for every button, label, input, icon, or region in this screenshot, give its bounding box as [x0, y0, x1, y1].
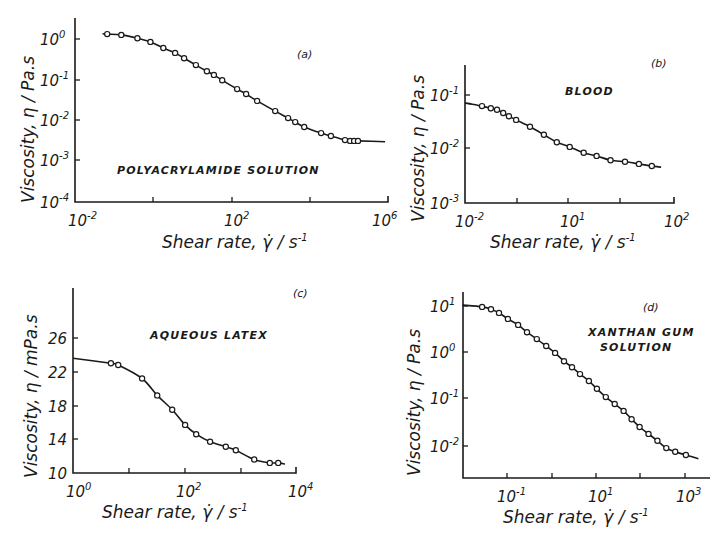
- panel-d-x-tick-labels: 10-1 101 103: [497, 486, 701, 506]
- data-point-marker: [622, 159, 627, 164]
- data-point-marker: [501, 110, 506, 115]
- data-point-marker: [342, 138, 347, 143]
- panel-b-y-tick-labels: 10-1 10-2 10-3: [430, 85, 459, 213]
- svg-text:100: 100: [430, 342, 455, 362]
- data-point-marker: [586, 378, 591, 383]
- svg-text:103: 103: [676, 486, 701, 506]
- data-point-marker: [612, 401, 617, 406]
- panel-d-tag: (d): [643, 301, 659, 314]
- panel-d-y-tick-labels: 101 100 10-1 10-2: [430, 296, 459, 456]
- data-point-marker: [636, 161, 641, 166]
- data-point-marker: [621, 408, 626, 413]
- panel-d-annotation-line2: SOLUTION: [600, 341, 672, 354]
- panel-a-y-tick-labels: 100 10-1 10-2 10-3 10-4: [40, 29, 69, 212]
- viscosity-figure: 100 10-1 10-2 10-3 10-4 10-2 102 106 She…: [0, 0, 725, 536]
- data-point-marker: [637, 424, 642, 429]
- data-point-marker: [514, 117, 519, 122]
- svg-text:102: 102: [224, 210, 249, 230]
- svg-text:10-2: 10-2: [455, 211, 484, 231]
- data-point-marker: [255, 98, 260, 103]
- svg-text:10-2: 10-2: [430, 138, 459, 158]
- panel-c-ticks: [73, 338, 241, 473]
- data-point-marker: [567, 144, 572, 149]
- data-point-marker: [267, 460, 272, 465]
- data-point-marker: [211, 72, 216, 77]
- data-point-marker: [488, 307, 493, 312]
- data-point-marker: [629, 417, 634, 422]
- svg-text:102: 102: [664, 211, 689, 231]
- panel-a-data-points: [105, 31, 361, 143]
- data-point-marker: [496, 310, 501, 315]
- data-point-marker: [108, 361, 113, 366]
- data-point-marker: [480, 304, 485, 309]
- panel-a-fit-curve: [103, 34, 386, 142]
- data-point-marker: [148, 39, 153, 44]
- panel-c: 26 22 18 14 10 100 102 104 Shear rate, γ…: [21, 287, 313, 522]
- svg-text:10-2: 10-2: [40, 110, 69, 130]
- data-point-marker: [116, 362, 121, 367]
- panel-c-x-label: Shear rate, γ̇ / s-1: [102, 502, 248, 522]
- svg-text:10-1: 10-1: [40, 70, 69, 90]
- svg-text:10: 10: [48, 465, 67, 483]
- panel-b-y-label: Viscosity, η / Pa.s: [408, 75, 428, 222]
- data-point-marker: [544, 343, 549, 348]
- data-point-marker: [182, 56, 187, 61]
- data-point-marker: [286, 116, 291, 121]
- data-point-marker: [244, 91, 249, 96]
- svg-text:26: 26: [48, 330, 67, 348]
- panel-a-x-label: Shear rate, γ̇ / s-1: [162, 232, 308, 252]
- panel-a-x-tick-labels: 10-2 102 106: [68, 210, 397, 230]
- svg-text:22: 22: [48, 364, 67, 382]
- data-point-marker: [527, 124, 532, 129]
- data-point-marker: [673, 449, 678, 454]
- data-point-marker: [594, 153, 599, 158]
- data-point-marker: [235, 87, 240, 92]
- data-point-marker: [649, 163, 654, 168]
- svg-text:10-2: 10-2: [430, 436, 459, 456]
- panel-b: 10-1 10-2 10-3 10-2 101 102 Shear rate, …: [408, 57, 689, 252]
- data-point-marker: [494, 107, 499, 112]
- svg-text:101: 101: [588, 486, 613, 506]
- panel-b-x-label: Shear rate, γ̇ / s-1: [490, 232, 636, 252]
- data-point-marker: [193, 63, 198, 68]
- data-point-marker: [328, 133, 333, 138]
- panel-b-ticks: [465, 95, 620, 203]
- data-point-marker: [170, 407, 175, 412]
- panel-c-y-tick-labels: 26 22 18 14 10: [48, 330, 67, 483]
- data-point-marker: [223, 444, 228, 449]
- panel-c-annotation: AQUEOUS LATEX: [149, 329, 268, 342]
- panel-c-y-label: Viscosity, η / mPa.s: [21, 314, 41, 478]
- data-point-marker: [220, 78, 225, 83]
- panel-b-data-points: [479, 104, 654, 169]
- data-point-marker: [524, 330, 529, 335]
- data-point-marker: [140, 376, 145, 381]
- panel-a-y-label: Viscosity, η / Pa.s: [18, 56, 38, 203]
- data-point-marker: [488, 106, 493, 111]
- svg-text:10-3: 10-3: [40, 150, 69, 170]
- data-point-marker: [105, 31, 110, 36]
- data-point-marker: [194, 432, 199, 437]
- panel-c-axes: [73, 288, 296, 473]
- panel-c-tag: (c): [293, 287, 308, 300]
- panel-c-x-tick-labels: 100 102 104: [66, 481, 313, 501]
- data-point-marker: [603, 395, 608, 400]
- panel-a-tag: (a): [297, 48, 312, 61]
- panel-d-x-label: Shear rate, γ̇ / s-1: [503, 507, 649, 527]
- svg-text:10-2: 10-2: [68, 210, 97, 230]
- data-point-marker: [479, 104, 484, 109]
- panel-d: 101 100 10-1 10-2 10-1 101 103 Shear rat…: [404, 292, 710, 527]
- data-point-marker: [646, 431, 651, 436]
- panel-b-fit-curve: [465, 103, 661, 167]
- panel-d-y-label: Viscosity, η / Pa.s: [404, 329, 424, 476]
- data-point-marker: [273, 109, 278, 114]
- panel-d-annotation-line1: XANTHAN GUM: [587, 326, 695, 339]
- svg-text:14: 14: [48, 431, 67, 449]
- data-point-marker: [534, 337, 539, 342]
- data-point-marker: [155, 393, 160, 398]
- data-point-marker: [119, 32, 124, 37]
- svg-text:10-3: 10-3: [430, 193, 459, 213]
- panel-c-fit-curve: [73, 358, 285, 464]
- data-point-marker: [355, 138, 360, 143]
- data-point-marker: [554, 140, 559, 145]
- data-point-marker: [553, 350, 558, 355]
